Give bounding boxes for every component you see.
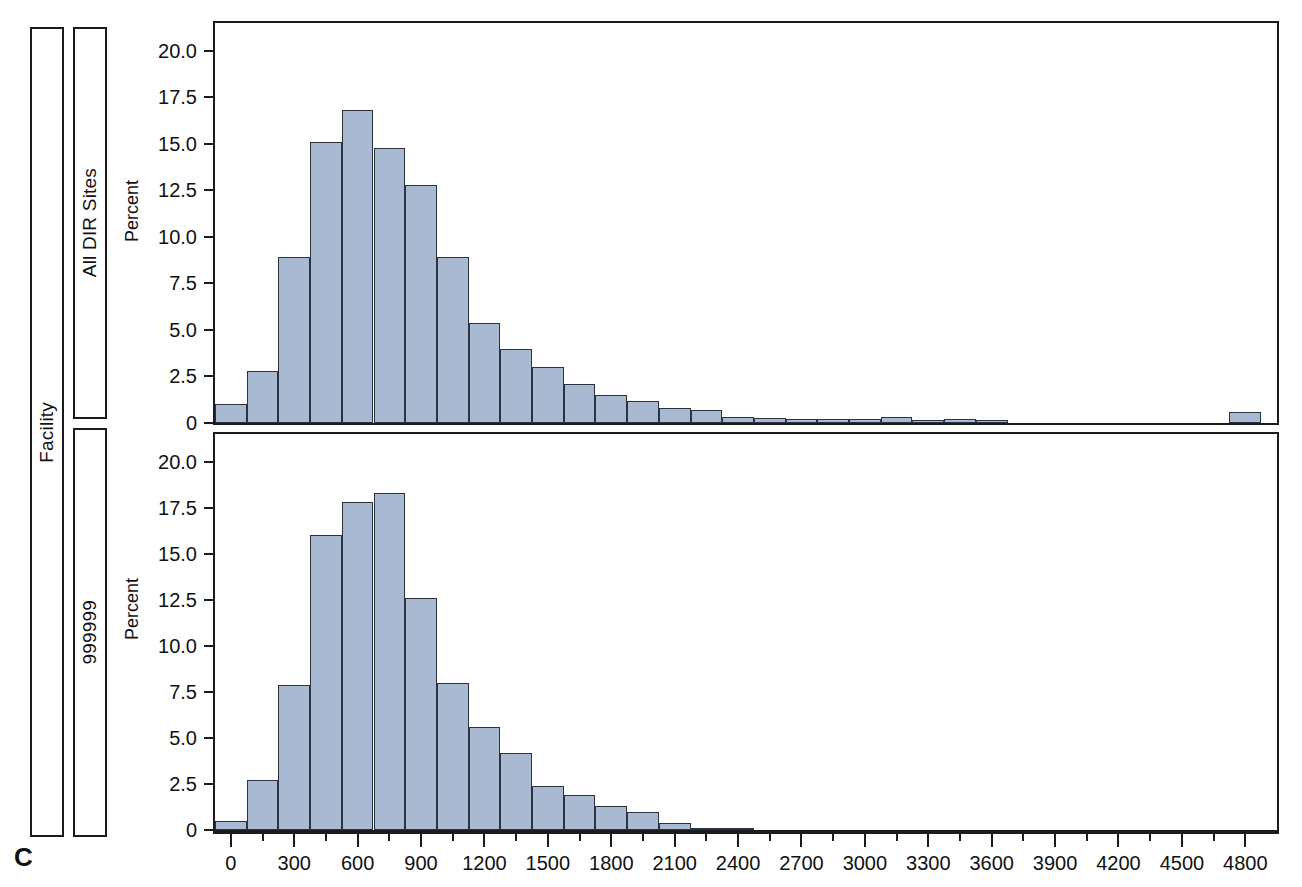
histogram-bar	[627, 812, 659, 830]
x-axis-tick	[737, 834, 739, 847]
strip-999999-label: 999999	[79, 600, 101, 665]
histogram-bar	[278, 257, 310, 423]
y-axis-tick	[204, 829, 213, 831]
x-axis-minor-tick	[705, 834, 707, 841]
x-axis-tick	[1054, 834, 1056, 847]
histogram-bar	[374, 148, 406, 423]
y-axis-tick	[204, 599, 213, 601]
y-axis-tick	[204, 422, 213, 424]
y-axis-tick-label: 2.5	[123, 772, 197, 795]
x-axis-tick-label: 3000	[843, 852, 888, 875]
histogram-bar	[564, 795, 596, 830]
histogram-bar	[881, 417, 913, 423]
x-axis-tick-label: 600	[341, 852, 374, 875]
x-axis-tick-label: 2100	[652, 852, 697, 875]
histogram-bar	[944, 419, 976, 423]
y-axis-tick-label: 10.0	[123, 225, 197, 248]
strip-facility-label: Facility	[36, 402, 58, 463]
histogram-bar	[500, 349, 532, 423]
y-axis-tick-label: 15.0	[123, 132, 197, 155]
histogram-bar	[976, 420, 1008, 423]
histogram-bar	[310, 142, 342, 423]
panel-letter: C	[14, 842, 33, 873]
y-axis-tick-label: 15.0	[123, 542, 197, 565]
y-axis-tick	[204, 691, 213, 693]
histogram-bar	[500, 753, 532, 830]
x-axis-minor-tick	[642, 834, 644, 841]
x-axis-line	[213, 832, 1279, 834]
x-axis-tick-label: 2700	[779, 852, 824, 875]
x-axis-minor-tick	[515, 834, 517, 841]
y-axis-tick-label: 20.0	[123, 450, 197, 473]
x-axis-tick-label: 900	[404, 852, 437, 875]
y-axis-tick	[204, 507, 213, 509]
histogram-bar	[754, 418, 786, 423]
y-axis-tick	[204, 645, 213, 647]
plot-area-all-dir-sites	[213, 21, 1279, 425]
y-axis-tick-label: 12.5	[123, 179, 197, 202]
histogram-bar	[627, 401, 659, 423]
strip-facility: Facility	[30, 27, 64, 837]
y-axis-tick-label: 12.5	[123, 588, 197, 611]
histogram-bar	[786, 419, 818, 423]
x-axis-tick	[547, 834, 549, 847]
y-axis-tick-label: 7.5	[123, 680, 197, 703]
y-axis-tick-label: 2.5	[123, 365, 197, 388]
histogram-bar	[532, 786, 564, 830]
histogram-bar	[405, 185, 437, 423]
histogram-bar	[564, 384, 596, 423]
histogram-bar	[247, 780, 279, 830]
y-axis-tick	[204, 375, 213, 377]
x-axis-tick	[927, 834, 929, 847]
x-axis-tick-label: 300	[278, 852, 311, 875]
histogram-bar	[278, 685, 310, 831]
histogram-bar	[374, 493, 406, 830]
x-axis-minor-tick	[262, 834, 264, 841]
y-axis-tick	[204, 189, 213, 191]
histogram-bar	[342, 502, 374, 830]
histogram-bar	[247, 371, 279, 423]
histogram-bar	[691, 410, 723, 423]
x-axis-minor-tick	[1086, 834, 1088, 841]
x-axis-tick	[1244, 834, 1246, 847]
y-axis-tick-label: 0	[123, 819, 197, 842]
x-axis-tick-label: 1800	[589, 852, 634, 875]
strip-all-dir-sites: All DIR Sites	[73, 27, 107, 419]
plot-area-999999	[213, 432, 1279, 832]
x-axis-minor-tick	[452, 834, 454, 841]
histogram-bar	[691, 828, 723, 830]
histogram-bar	[595, 806, 627, 830]
x-axis-minor-tick	[896, 834, 898, 841]
figure-container: Facility All DIR Sites 999999 C Percent …	[0, 0, 1302, 887]
histogram-bar	[437, 683, 469, 830]
y-axis-tick	[204, 461, 213, 463]
y-axis-tick-label: 17.5	[123, 86, 197, 109]
x-axis-minor-tick	[579, 834, 581, 841]
x-axis-minor-tick	[325, 834, 327, 841]
strip-all-dir-sites-label: All DIR Sites	[79, 168, 101, 277]
x-axis-minor-tick	[1022, 834, 1024, 841]
histogram-bar	[405, 598, 437, 830]
x-axis-tick-label: 4500	[1160, 852, 1205, 875]
y-axis-tick-label: 10.0	[123, 634, 197, 657]
y-axis-tick-label: 17.5	[123, 496, 197, 519]
bars-group-bottom	[215, 434, 1277, 830]
histogram-bar	[215, 821, 247, 830]
histogram-bar	[532, 367, 564, 423]
x-axis-minor-tick	[1213, 834, 1215, 841]
y-axis-tick-label: 5.0	[123, 318, 197, 341]
y-axis-tick	[204, 96, 213, 98]
y-axis-tick	[204, 236, 213, 238]
y-axis-tick	[204, 282, 213, 284]
x-axis-tick	[1117, 834, 1119, 847]
x-axis-tick-label: 2400	[716, 852, 761, 875]
x-axis-tick-label: 3300	[906, 852, 951, 875]
x-axis-tick-label: 3600	[969, 852, 1014, 875]
x-axis-minor-tick	[832, 834, 834, 841]
x-axis-minor-tick	[959, 834, 961, 841]
x-axis-tick	[991, 834, 993, 847]
bars-group-top	[215, 23, 1277, 423]
y-axis-tick	[204, 553, 213, 555]
histogram-bar	[215, 404, 247, 423]
histogram-bar	[659, 408, 691, 423]
